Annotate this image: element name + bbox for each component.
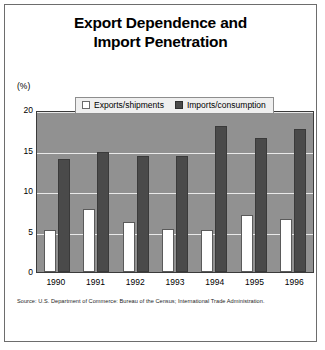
y-axis-unit-label: (%)	[17, 81, 30, 91]
x-tick-label-1996: 1996	[274, 277, 314, 287]
source-note: Source: U.S. Department of Commerce: Bur…	[17, 298, 309, 304]
bar-imports-1993	[176, 156, 188, 272]
bar-group	[241, 112, 267, 272]
bar-imports-1995	[255, 138, 267, 272]
bar-group	[83, 112, 109, 272]
bar-exports-1995	[241, 215, 253, 273]
legend-swatch-imports-icon	[175, 101, 183, 109]
bar-exports-1994	[201, 230, 213, 272]
bar-group	[280, 112, 306, 272]
bar-exports-1991	[83, 209, 95, 272]
bar-exports-1996	[280, 219, 292, 272]
y-tick-label-0: 0	[9, 267, 33, 277]
bar-imports-1991	[97, 152, 109, 272]
legend-item-imports: Imports/consumption	[175, 100, 266, 110]
legend-label-exports: Exports/shipments	[94, 100, 164, 110]
chart-legend: Exports/shipments Imports/consumption	[75, 97, 274, 114]
chart-title-line-1: Export Dependence and	[74, 14, 247, 31]
x-tick-label-1994: 1994	[195, 277, 235, 287]
y-tick-label-10: 10	[9, 186, 33, 196]
bar-imports-1994	[215, 126, 227, 272]
bar-group	[44, 112, 70, 272]
x-tick-label-1991: 1991	[76, 277, 116, 287]
legend-item-exports: Exports/shipments	[82, 100, 164, 110]
bar-imports-1996	[294, 129, 306, 272]
bar-group	[162, 112, 188, 272]
legend-label-imports: Imports/consumption	[187, 100, 266, 110]
y-tick-label-20: 20	[9, 105, 33, 115]
bar-group	[201, 112, 227, 272]
bar-groups	[37, 112, 313, 272]
legend-swatch-exports-icon	[82, 101, 90, 109]
plot-area	[36, 111, 314, 273]
bar-imports-1990	[58, 159, 70, 272]
bar-exports-1990	[44, 230, 56, 272]
bar-exports-1992	[123, 222, 135, 272]
y-tick-label-15: 15	[9, 146, 33, 156]
bar-imports-1992	[137, 156, 149, 272]
bar-exports-1993	[162, 229, 174, 272]
chart-title-line-2: Import Penetration	[5, 32, 316, 51]
chart-figure: Export Dependence and Import Penetration…	[4, 4, 317, 342]
x-tick-label-1993: 1993	[155, 277, 195, 287]
x-tick-label-1990: 1990	[36, 277, 76, 287]
x-tick-label-1992: 1992	[115, 277, 155, 287]
chart-title: Export Dependence and Import Penetration	[5, 13, 316, 51]
bar-group	[123, 112, 149, 272]
x-axis-tick-labels: 1990199119921993199419951996	[36, 277, 314, 287]
y-tick-label-5: 5	[9, 227, 33, 237]
x-tick-label-1995: 1995	[235, 277, 275, 287]
